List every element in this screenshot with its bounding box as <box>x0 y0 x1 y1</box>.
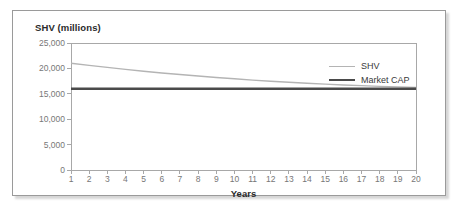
legend-item-label: SHV <box>361 61 380 71</box>
x-axis-tick-label: 17 <box>357 174 366 184</box>
y-axis-tick-label: 0 <box>60 165 65 175</box>
x-axis-tick-label: 19 <box>393 174 402 184</box>
x-axis-tick-label: 18 <box>375 174 384 184</box>
y-axis-title: SHV (millions) <box>35 22 101 33</box>
x-axis-tick-label: 4 <box>123 174 128 184</box>
x-axis-tick-label: 15 <box>320 174 329 184</box>
y-axis-tick-label: 5,000 <box>44 140 65 150</box>
x-axis-tick-label: 6 <box>159 174 164 184</box>
legend-line-swatch <box>329 66 355 67</box>
chart-frame: SHV (millions) 05,00010,00015,00020,0002… <box>12 10 446 196</box>
plot-area: SHVMarket CAP <box>71 43 416 170</box>
x-axis-tick-label: 10 <box>230 174 239 184</box>
x-axis-tick-label: 14 <box>302 174 311 184</box>
x-axis-tick-label: 20 <box>411 174 420 184</box>
y-axis-tick-label: 15,000 <box>39 89 65 99</box>
legend-item-label: Market CAP <box>361 75 410 85</box>
x-axis-tick-label: 8 <box>196 174 201 184</box>
x-axis-tick-label: 12 <box>266 174 275 184</box>
x-axis-tick-labels: 1234567891011121314151617181920 <box>71 174 416 188</box>
x-axis-tick-label: 13 <box>284 174 293 184</box>
x-axis-tick-label: 11 <box>248 174 257 184</box>
y-axis-tick-label: 25,000 <box>39 38 65 48</box>
y-axis-tick-label: 20,000 <box>39 63 65 73</box>
x-axis-tick-label: 5 <box>141 174 146 184</box>
legend-line-swatch <box>329 79 355 81</box>
x-axis-title: Years <box>71 188 416 199</box>
x-axis-tick-label: 3 <box>105 174 110 184</box>
x-axis-tick-label: 1 <box>69 174 74 184</box>
chart-figure: SHV (millions) 05,00010,00015,00020,0002… <box>0 0 466 221</box>
legend-item: SHV <box>329 59 425 73</box>
chart-legend: SHVMarket CAP <box>329 59 425 87</box>
legend-item: Market CAP <box>329 73 425 87</box>
x-axis-tick-label: 7 <box>178 174 183 184</box>
x-axis-tick-label: 9 <box>214 174 219 184</box>
y-axis-tick-label: 10,000 <box>39 114 65 124</box>
x-axis-tick-label: 2 <box>87 174 92 184</box>
y-axis-tick-labels: 05,00010,00015,00020,00025,000 <box>23 43 65 170</box>
x-axis-tick-label: 16 <box>339 174 348 184</box>
